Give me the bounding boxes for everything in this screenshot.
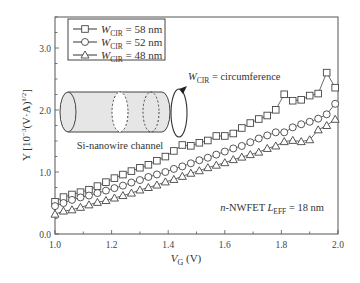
device-annotation: n-NWFET LEFF = 18 nm	[220, 202, 324, 216]
y-tick-label: 2.0	[39, 106, 51, 116]
x-tick-label: 1.0	[49, 240, 61, 250]
nanowire-diagram: Si-nanowire channel WCIR = circumference	[60, 71, 281, 151]
x-tick-label: 1.2	[106, 240, 118, 250]
channel-label: Si-nanowire channel	[77, 140, 164, 151]
x-tick-label: 2.0	[332, 240, 344, 250]
x-tick-label: 1.8	[275, 240, 287, 250]
chart: 1.01.21.41.61.82.00.01.02.03.0 VG (V) Y …	[0, 0, 360, 283]
y-axis-title: Y [10−3(V·A)1/2]	[20, 89, 33, 161]
legend: WCIR = 58 nmWCIR = 52 nmWCIR = 48 nm	[68, 19, 165, 64]
y-tick-label: 1.0	[39, 168, 51, 178]
y-tick-label: 0.0	[39, 230, 51, 240]
series-square	[52, 69, 339, 205]
circumference-label: WCIR = circumference	[188, 71, 281, 85]
circumference-loop	[171, 89, 187, 137]
x-tick-label: 1.6	[219, 240, 231, 250]
circumference-arrow-icon	[179, 86, 187, 94]
y-tick-label: 3.0	[39, 44, 51, 54]
x-axis-title: VG (V)	[171, 252, 202, 267]
x-tick-label: 1.4	[162, 240, 174, 250]
dashed-ring-1	[112, 92, 128, 132]
